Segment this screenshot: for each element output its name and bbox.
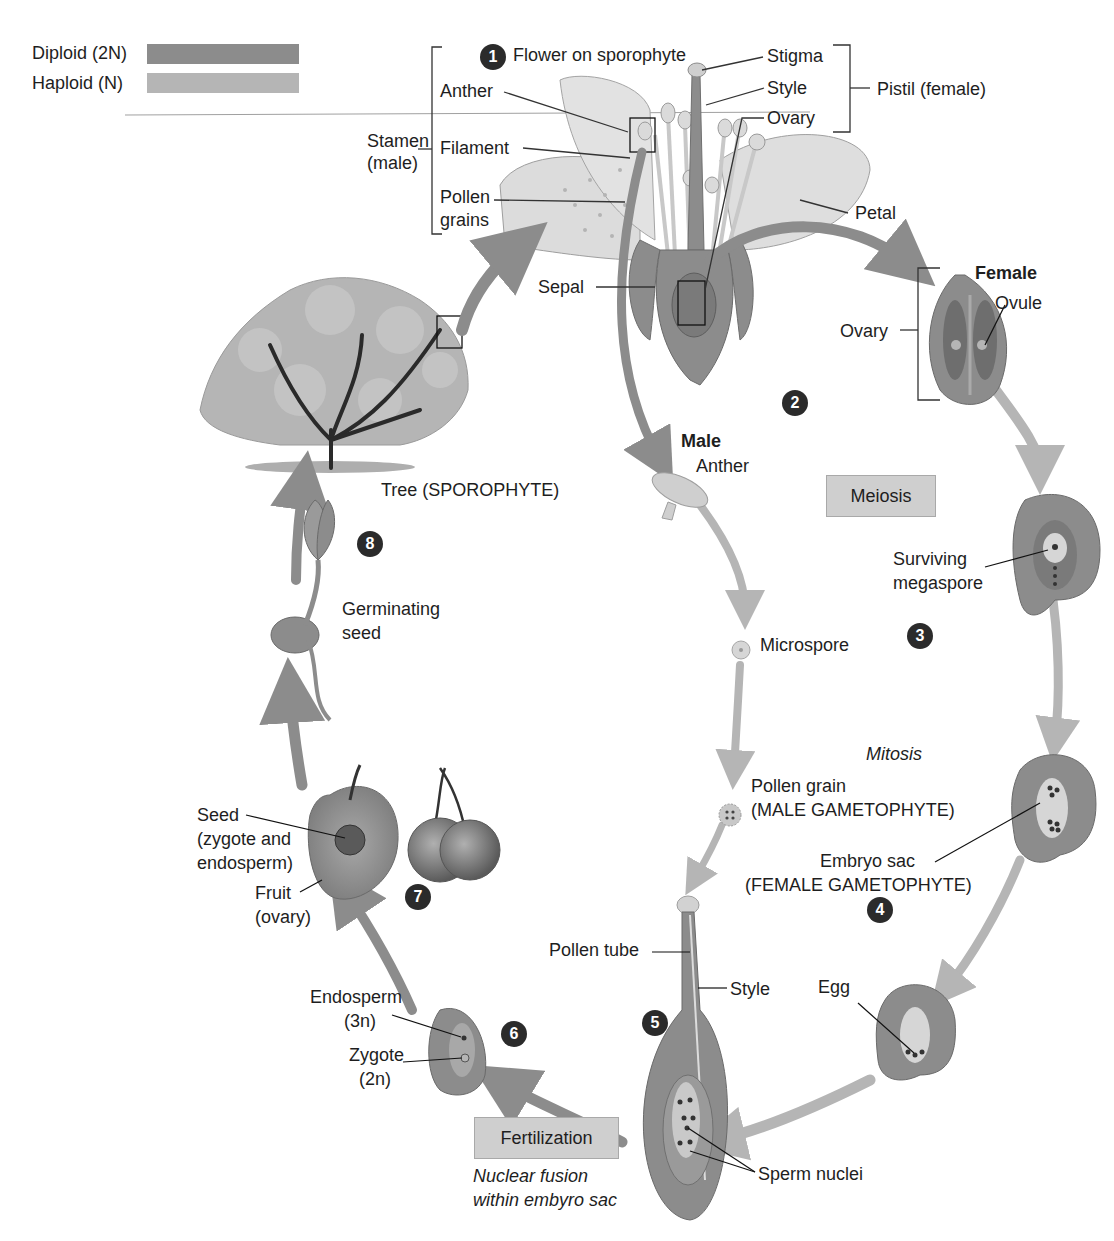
process-fertilization: Fertilization bbox=[474, 1117, 619, 1159]
egg-ovule bbox=[858, 985, 955, 1080]
label-fruit-ovary: (ovary) bbox=[255, 906, 311, 928]
legend-label-haploid: Haploid (N) bbox=[32, 72, 123, 94]
seed-ovule bbox=[392, 1008, 486, 1095]
label-surviving: Surviving bbox=[893, 548, 967, 570]
tree-illustration bbox=[200, 278, 468, 473]
step-badge-6: 6 bbox=[501, 1021, 527, 1047]
legend-swatch-haploid bbox=[147, 73, 299, 93]
label-egg: Egg bbox=[818, 976, 850, 998]
step-badge-7: 7 bbox=[405, 884, 431, 910]
legend-swatch-diploid bbox=[147, 44, 299, 64]
fertilization-pistil bbox=[643, 896, 755, 1220]
step-badge-1: 1 bbox=[480, 44, 506, 70]
label-male: Male bbox=[681, 430, 721, 452]
label-female: Female bbox=[975, 262, 1037, 284]
label-germinating-seed: seed bbox=[342, 622, 381, 644]
megaspore-ovule bbox=[985, 494, 1100, 615]
label-zygote: Zygote bbox=[349, 1044, 404, 1066]
step-badge-3: 3 bbox=[907, 623, 933, 649]
label-zygote-ploidy: (2n) bbox=[359, 1068, 391, 1090]
divider-line bbox=[125, 112, 810, 115]
label-pollen-tube: Pollen tube bbox=[549, 939, 639, 961]
fertilization-note-line1: Nuclear fusion bbox=[473, 1165, 588, 1187]
label-endosperm-ploidy: (3n) bbox=[344, 1010, 376, 1032]
label-female-gametophyte: (FEMALE GAMETOPHYTE) bbox=[745, 874, 972, 896]
label-megaspore: megaspore bbox=[893, 572, 983, 594]
pollen-grain-shape bbox=[719, 804, 741, 826]
label-stamen-male: (male) bbox=[367, 152, 418, 174]
label-seed-zygote: (zygote and bbox=[197, 828, 291, 850]
label-stamen: Stamen bbox=[367, 130, 429, 152]
label-pistil: Pistil (female) bbox=[877, 78, 986, 100]
legend-label-diploid: Diploid (2N) bbox=[32, 42, 127, 64]
step-badge-8: 8 bbox=[357, 531, 383, 557]
cherries bbox=[408, 768, 500, 882]
label-pollen: Pollen bbox=[440, 186, 490, 208]
label-seed: Seed bbox=[197, 804, 239, 826]
process-meiosis: Meiosis bbox=[826, 475, 936, 517]
label-seed-endosperm: endosperm) bbox=[197, 852, 293, 874]
label-pollen-grain: Pollen grain bbox=[751, 775, 846, 797]
label-filament: Filament bbox=[440, 137, 509, 159]
label-style: Style bbox=[767, 77, 807, 99]
label-embryo-sac: Embryo sac bbox=[820, 850, 915, 872]
step-1-label: Flower on sporophyte bbox=[513, 44, 686, 66]
label-microspore: Microspore bbox=[760, 634, 849, 656]
label-sepal: Sepal bbox=[538, 276, 584, 298]
step-badge-5: 5 bbox=[642, 1010, 668, 1036]
label-style-fertilization: Style bbox=[730, 978, 770, 1000]
diagram-artwork bbox=[0, 0, 1114, 1241]
label-petal: Petal bbox=[855, 202, 896, 224]
label-sperm-nuclei: Sperm nuclei bbox=[758, 1163, 863, 1185]
label-tree-sporophyte: Tree (SPOROPHYTE) bbox=[381, 479, 559, 501]
label-ovary-flower: Ovary bbox=[767, 107, 815, 129]
label-pollen-grains: grains bbox=[440, 209, 489, 231]
label-endosperm: Endosperm bbox=[310, 986, 402, 1008]
label-male-anther: Anther bbox=[696, 455, 749, 477]
label-germinating: Germinating bbox=[342, 598, 440, 620]
label-anther: Anther bbox=[440, 80, 493, 102]
process-mitosis: Mitosis bbox=[866, 743, 922, 765]
step-badge-4: 4 bbox=[867, 897, 893, 923]
step-badge-2: 2 bbox=[782, 390, 808, 416]
ovary-cross-section bbox=[900, 268, 1007, 404]
label-stigma: Stigma bbox=[767, 45, 823, 67]
label-fruit: Fruit bbox=[255, 882, 291, 904]
label-male-gametophyte: (MALE GAMETOPHYTE) bbox=[751, 799, 955, 821]
label-ovule: Ovule bbox=[995, 292, 1042, 314]
fertilization-note-line2: within embyro sac bbox=[473, 1189, 617, 1211]
angiosperm-life-cycle-diagram: Diploid (2N) Haploid (N) 1 Flower on spo… bbox=[0, 0, 1114, 1241]
embryo-sac-ovule bbox=[935, 755, 1096, 863]
label-ovary-female: Ovary bbox=[840, 320, 888, 342]
